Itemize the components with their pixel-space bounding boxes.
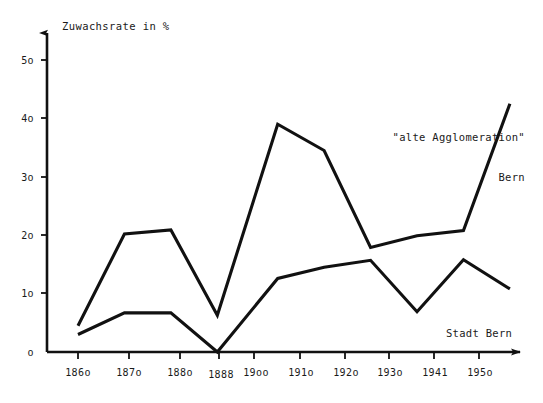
y-tick-label-0: o <box>0 347 34 358</box>
y-tick-label-10: 1o <box>0 288 34 299</box>
x-tick-label-1860: 186o <box>65 367 91 378</box>
growth-rate-line-chart: Zuwachsrate in % 5o 4o 3o 2o 1o o 186o 1… <box>0 0 543 403</box>
x-tick-label-1920: 192o <box>333 367 359 378</box>
x-tick-label-1910: 191o <box>288 367 314 378</box>
x-tick-label-1888: 1888 <box>208 369 234 380</box>
series-label-stadt-bern: Stadt Bern <box>446 300 512 367</box>
y-tick-label-30: 3o <box>0 172 34 183</box>
series-label-stadt-bern-line1: Stadt Bern <box>446 327 512 340</box>
x-tick-label-1900: 19oo <box>243 367 269 378</box>
y-axis-title: Zuwachsrate in % <box>62 20 170 32</box>
series-label-alte-agglomeration: "alte Agglomeration" Bern <box>358 104 525 212</box>
series-label-alte-agglomeration-line2: Bern <box>358 171 525 184</box>
x-tick-label-1870: 187o <box>116 367 142 378</box>
x-tick-label-1950: 195o <box>467 367 493 378</box>
x-tick-label-1930: 193o <box>377 367 403 378</box>
series-label-alte-agglomeration-line1: "alte Agglomeration" <box>358 131 525 144</box>
y-tick-label-50: 5o <box>0 55 34 66</box>
y-tick-label-20: 2o <box>0 230 34 241</box>
x-tick-label-1880: 188o <box>167 367 193 378</box>
x-tick-label-1941: 1941 <box>422 367 448 378</box>
y-tick-label-40: 4o <box>0 113 34 124</box>
